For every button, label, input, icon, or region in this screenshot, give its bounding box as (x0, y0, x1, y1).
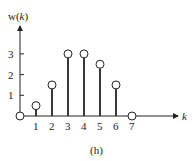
stem-marker (32, 102, 40, 110)
stem-marker (128, 112, 136, 120)
figure-caption: (h) (90, 144, 103, 157)
x-tick-label: 7 (129, 120, 135, 132)
x-tick-label: 3 (65, 120, 71, 132)
stem-marker (96, 60, 104, 68)
y-axis-label: w(k) (8, 10, 29, 23)
x-ticks: 1234567 (33, 120, 135, 132)
stem-marker (64, 50, 72, 58)
x-tick-label: 1 (33, 120, 39, 132)
x-tick-label: 2 (49, 120, 55, 132)
stem-marker (48, 81, 56, 89)
x-tick-label: 4 (81, 120, 87, 132)
x-axis-label: k (182, 110, 188, 122)
stem-plot: 123 1234567 w(k) k (h) (0, 0, 196, 161)
stem-marker (16, 112, 24, 120)
stems (16, 50, 136, 120)
y-ticks: 123 (8, 48, 24, 101)
x-tick-label: 5 (97, 120, 103, 132)
x-tick-label: 6 (113, 120, 119, 132)
y-tick-label: 2 (8, 69, 14, 81)
y-tick-label: 3 (8, 48, 14, 60)
stem-marker (112, 81, 120, 89)
y-tick-label: 1 (8, 89, 14, 101)
stem-marker (80, 50, 88, 58)
